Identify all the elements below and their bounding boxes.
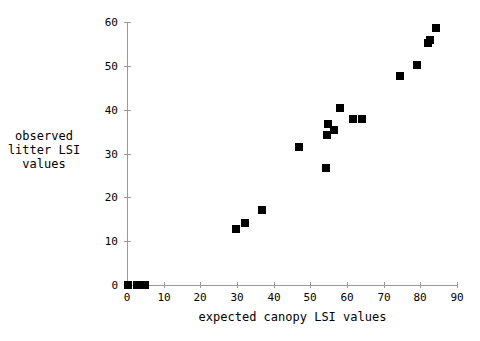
data-point — [232, 225, 240, 233]
data-point — [330, 126, 338, 134]
data-point — [322, 164, 330, 172]
x-axis-line — [127, 285, 458, 286]
y-tick-label: 10 — [88, 236, 118, 247]
scatter-plot-figure: 0102030405060708090 0102030405060 expect… — [0, 0, 480, 341]
x-tick — [384, 282, 385, 288]
data-point — [133, 281, 141, 289]
x-tick — [200, 282, 201, 288]
y-axis-title: observed litter LSI values — [2, 129, 86, 171]
y-tick-label: 30 — [88, 149, 118, 160]
y-tick — [124, 197, 131, 198]
y-axis-title-line-3: values — [2, 157, 86, 171]
y-tick — [124, 154, 131, 155]
x-tick-label: 60 — [332, 291, 362, 304]
data-point — [426, 36, 434, 44]
data-point — [432, 24, 440, 32]
x-tick-label: 10 — [149, 291, 179, 304]
x-tick — [457, 282, 458, 288]
data-point — [396, 72, 404, 80]
y-tick-label: 50 — [88, 61, 118, 72]
data-point — [141, 281, 149, 289]
data-point — [358, 115, 366, 123]
y-tick — [124, 110, 131, 111]
x-tick-label: 0 — [112, 291, 142, 304]
y-tick — [124, 22, 131, 23]
x-tick-label: 80 — [405, 291, 435, 304]
data-point — [258, 206, 266, 214]
x-tick-label: 50 — [295, 291, 325, 304]
data-point — [241, 219, 249, 227]
y-tick-label: 0 — [88, 280, 118, 291]
data-point — [413, 61, 421, 69]
x-tick — [310, 282, 311, 288]
y-tick — [124, 66, 131, 67]
x-tick — [164, 282, 165, 288]
x-tick-label: 20 — [185, 291, 215, 304]
x-tick — [274, 282, 275, 288]
y-tick-label: 60 — [88, 17, 118, 28]
x-tick-label: 70 — [369, 291, 399, 304]
x-tick — [237, 282, 238, 288]
x-tick-label: 40 — [259, 291, 289, 304]
y-tick-label: 40 — [88, 105, 118, 116]
x-axis-title: expected canopy LSI values — [127, 310, 458, 325]
data-point — [336, 104, 344, 112]
y-axis-title-line-1: observed — [2, 129, 86, 143]
y-tick — [124, 241, 131, 242]
y-axis-title-line-2: litter LSI — [2, 143, 86, 157]
data-point — [295, 143, 303, 151]
x-tick-label: 90 — [442, 291, 472, 304]
x-tick — [347, 282, 348, 288]
x-tick-label: 30 — [222, 291, 252, 304]
x-tick — [420, 282, 421, 288]
y-tick-label: 20 — [88, 192, 118, 203]
data-point — [349, 115, 357, 123]
data-point — [124, 281, 132, 289]
